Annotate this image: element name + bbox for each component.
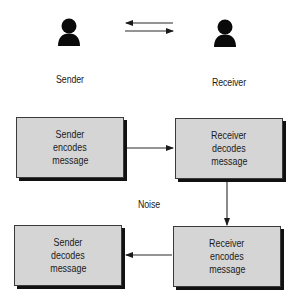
box-line: encodes — [53, 141, 87, 154]
sender-decodes-box: Sender decodes message — [14, 225, 122, 286]
box-line: Sender — [56, 128, 85, 141]
box-line: message — [209, 263, 245, 276]
box-line: decodes — [212, 142, 246, 155]
sender-label: Sender — [56, 74, 84, 85]
receiver-decodes-box: Receiver decodes message — [175, 118, 283, 179]
box-line: message — [50, 262, 86, 275]
receiver-label: Receiver — [211, 77, 248, 88]
box-line: message — [52, 154, 88, 167]
box-line: message — [211, 155, 247, 168]
box-line: Sender — [54, 236, 83, 249]
noise-label: Noise — [136, 199, 162, 210]
sender-encodes-box: Sender encodes message — [16, 117, 124, 178]
box-line: decodes — [51, 249, 85, 262]
receiver-encodes-box: Receiver encodes message — [173, 226, 281, 287]
sender-person-icon — [56, 17, 82, 47]
box-line: encodes — [210, 250, 244, 263]
box-line: Receiver — [211, 129, 246, 142]
receiver-person-icon — [212, 18, 238, 48]
box-line: Receiver — [209, 237, 244, 250]
